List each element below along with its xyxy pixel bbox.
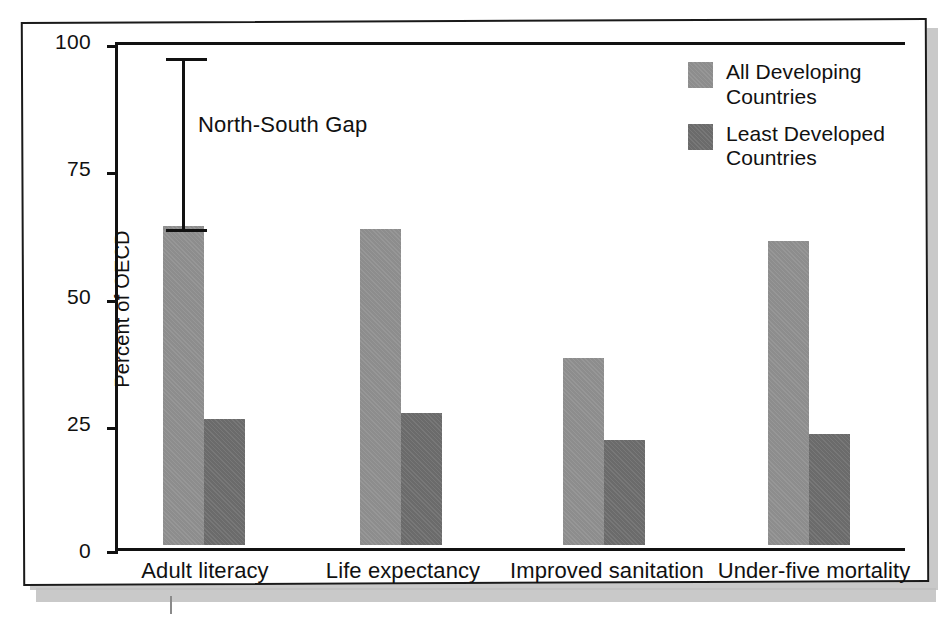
- bar-improved-sanitation-least-developed[interactable]: [604, 440, 645, 545]
- bar-life-expectancy-all-developing[interactable]: [360, 229, 401, 545]
- bar-life-expectancy-least-developed[interactable]: [401, 413, 442, 545]
- x-axis: Adult literacy Life expectancy Improved …: [115, 558, 915, 598]
- x-tick-label-life-expectancy: Life expectancy: [326, 558, 480, 584]
- y-tick-mark-100: [107, 45, 118, 48]
- y-tick-mark-75: [107, 172, 118, 175]
- y-tick-mark-50: [107, 300, 118, 303]
- legend: All Developing Countries Least Developed…: [688, 60, 885, 183]
- y-tick-label-100: 100: [55, 30, 91, 54]
- bar-improved-sanitation-all-developing[interactable]: [563, 358, 604, 545]
- legend-label-all-developing: All Developing Countries: [726, 60, 862, 110]
- bar-under-five-mortality-all-developing[interactable]: [768, 241, 809, 545]
- y-axis: 100 75 50 25 0: [0, 0, 115, 619]
- bar-adult-literacy-all-developing[interactable]: [163, 226, 204, 545]
- north-south-gap-error-bar: [182, 58, 185, 233]
- error-bar-cap-top: [166, 58, 207, 61]
- y-tick-label-75: 75: [67, 157, 91, 181]
- bar-adult-literacy-least-developed[interactable]: [204, 419, 245, 546]
- y-tick-mark-25: [107, 427, 118, 430]
- legend-swatch-icon-least-developed: [688, 124, 713, 150]
- error-bar-cap-bottom: [166, 229, 207, 232]
- x-tick-label-adult-literacy: Adult literacy: [141, 558, 268, 584]
- y-tick-label-0: 0: [79, 539, 91, 563]
- legend-label-least-developed: Least Developed Countries: [726, 122, 885, 172]
- y-tick-label-50: 50: [67, 285, 91, 309]
- chart-container: 100 75 50 25 0 Percent of OECD North-Sou: [0, 0, 951, 619]
- x-tick-label-improved-sanitation: Improved sanitation: [510, 558, 704, 584]
- north-south-gap-label: North-South Gap: [198, 112, 367, 138]
- y-tick-mark-0: [107, 551, 118, 554]
- legend-item-all-developing[interactable]: All Developing Countries: [688, 60, 885, 110]
- y-tick-label-25: 25: [67, 412, 91, 436]
- bar-under-five-mortality-least-developed[interactable]: [809, 434, 850, 545]
- x-tick-label-under-five-mortality: Under-five mortality: [718, 558, 911, 584]
- legend-swatch-icon-all-developing: [688, 62, 713, 88]
- legend-item-least-developed[interactable]: Least Developed Countries: [688, 122, 885, 172]
